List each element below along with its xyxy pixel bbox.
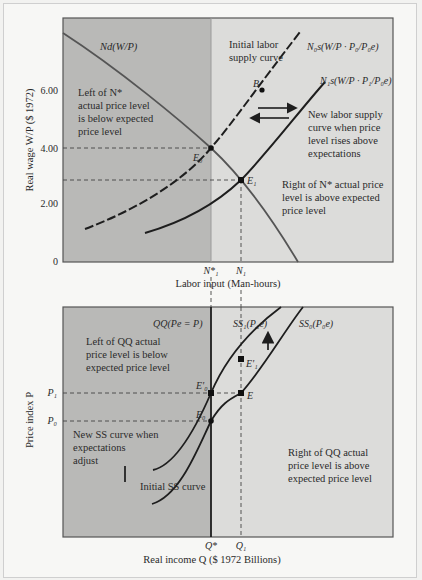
svg-text:expectations: expectations	[308, 148, 360, 159]
svg-text:price level: price level	[78, 126, 122, 137]
svg-text:New SS curve when: New SS curve when	[73, 429, 159, 440]
top-chart: 6.00 4.00 2.00 0 Real wage W/P ($ 1972) …	[24, 18, 393, 290]
bottom-right-shade	[211, 307, 393, 537]
svg-text:expected price level: expected price level	[86, 362, 170, 373]
label-e0: E₀	[192, 152, 203, 163]
qq-curve-label: QQ(Pe = P)	[153, 318, 203, 330]
label-e0-prime: E'₀	[195, 380, 208, 391]
svg-text:Right of QQ actual: Right of QQ actual	[288, 447, 368, 458]
xtick-q1: Q₁	[236, 540, 247, 551]
point-e	[238, 390, 244, 396]
svg-text:supply curve: supply curve	[229, 52, 283, 63]
bottom-y-axis-label: Price index P	[24, 392, 35, 448]
ytick-0: 0	[53, 256, 58, 267]
ss0-curve-label: SS₀(P₀e)	[299, 318, 334, 330]
top-x-axis-label: Labor input (Man-hours)	[176, 278, 281, 290]
svg-text:expected price level: expected price level	[288, 473, 372, 484]
svg-text:actual price level: actual price level	[78, 100, 150, 111]
svg-text:is below expected: is below expected	[78, 113, 154, 124]
label-e1-prime: E'₁	[245, 358, 258, 369]
label-b: B	[253, 78, 259, 89]
svg-text:Initial labor: Initial labor	[229, 39, 279, 50]
xtick-n1: N₁	[235, 265, 246, 276]
ytick-p0: P₀	[46, 415, 57, 426]
point-e0-prime	[208, 390, 214, 396]
point-e0	[208, 145, 214, 151]
svg-text:adjust: adjust	[73, 455, 98, 466]
top-left-shade	[63, 18, 211, 262]
xtick-n-star: N*₁	[202, 265, 218, 276]
svg-text:Left of QQ actual: Left of QQ actual	[86, 336, 160, 347]
svg-text:expectations: expectations	[73, 442, 125, 453]
svg-text:price level is above: price level is above	[288, 460, 370, 471]
point-e1	[238, 177, 244, 183]
ytick-2: 2.00	[41, 198, 59, 209]
bottom-x-axis-label: Real income Q ($ 1972 Billions)	[143, 554, 281, 566]
note-right-of-qq: Right of QQ actual price level is above …	[288, 447, 372, 484]
note-initial-ss-curve: Initial SS curve	[140, 481, 206, 492]
ytick-p1: P₁	[46, 387, 57, 398]
label-e0-bottom: E₀	[195, 409, 206, 420]
bottom-chart: P₁ P₀ Price index P Q* Q₁ Real income Q …	[24, 307, 393, 566]
label-e1: E₁	[246, 175, 257, 186]
ss1-curve-label: SS₁(P₁e)	[233, 318, 268, 330]
svg-text:level rises above: level rises above	[308, 135, 378, 146]
ytick-4: 4.00	[41, 143, 59, 154]
svg-text:curve when price: curve when price	[308, 122, 381, 133]
svg-text:Left of N*: Left of N*	[78, 87, 122, 98]
note-left-of-qq: Left of QQ actual price level is below e…	[86, 336, 170, 373]
svg-text:New labor supply: New labor supply	[308, 109, 383, 120]
point-e0-bottom	[208, 418, 214, 424]
point-b	[259, 87, 264, 92]
label-e: E	[246, 390, 253, 401]
svg-text:level is above expected: level is above expected	[282, 192, 380, 203]
figure-canvas: 6.00 4.00 2.00 0 Real wage W/P ($ 1972) …	[0, 0, 422, 580]
ytick-6: 6.00	[41, 85, 59, 96]
point-e1-prime	[238, 356, 244, 362]
svg-text:price level is below: price level is below	[86, 349, 168, 360]
xtick-q-star: Q*	[205, 540, 217, 551]
initial-supply-curve-label: N₀s(W/P · P₀/P₀e)	[306, 41, 379, 53]
svg-text:price level: price level	[282, 205, 326, 216]
svg-text:Right of N* actual price: Right of N* actual price	[282, 179, 384, 190]
new-supply-curve-label: N₁s(W/P · P₁/P₀e)	[319, 75, 392, 87]
top-y-axis-label: Real wage W/P ($ 1972)	[24, 88, 36, 192]
demand-curve-label: Nd(W/P)	[99, 41, 138, 53]
